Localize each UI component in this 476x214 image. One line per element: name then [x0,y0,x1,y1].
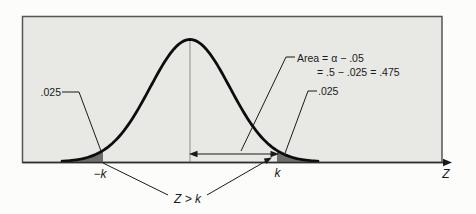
figure-normal-curve: .025 .025 Area = α − .05 = .5 − .025 = .… [0,0,476,214]
z-axis-arrowhead-icon [443,159,452,166]
tail-event-left-leader-line [103,163,168,195]
k-tick-label: k [275,166,282,180]
neg-k-tick-label: −k [93,167,107,181]
area-note-line2: = .5 − .025 = .475 [317,66,400,78]
tail-event-label: Z > k [173,192,202,206]
left-tail-area-label: .025 [41,86,62,98]
area-note-line1: Area = α − .05 [297,52,364,64]
tail-event-right-leader-line [207,161,266,195]
right-tail-area-label: .025 [318,85,339,97]
diagram-canvas: .025 .025 Area = α − .05 = .5 − .025 = .… [0,0,476,214]
z-axis-label: Z [441,167,450,181]
